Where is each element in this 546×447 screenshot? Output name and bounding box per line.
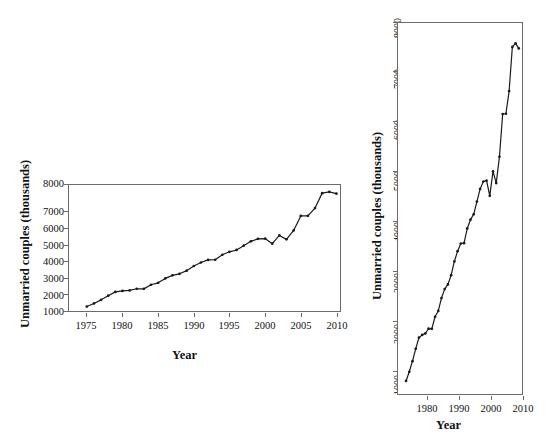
left-xtick-1975: 1975	[66, 321, 106, 332]
left-xtick-mark	[337, 313, 338, 317]
left-xtick-1995: 1995	[209, 321, 249, 332]
left-ytick-3000: 3000	[30, 274, 64, 285]
left-ytick-6000: 6000	[30, 224, 64, 235]
right-xtick-mark	[427, 396, 428, 400]
left-xtick-mark	[122, 313, 123, 317]
left-xtick-mark	[194, 313, 195, 317]
right-xtick-mark	[459, 396, 460, 400]
left-xtick-mark	[86, 313, 87, 317]
chart-panel-left: Unmarried couples (thousands) 1000 2000 …	[0, 168, 350, 368]
right-x-axis-title: Year	[436, 418, 461, 433]
right-y-axis-title: Unmarried couples (thousands)	[370, 132, 385, 300]
left-xtick-1985: 1985	[138, 321, 178, 332]
left-xtick-2005: 2005	[281, 321, 321, 332]
left-ytick-7000: 7000	[30, 207, 64, 218]
left-xtick-mark	[229, 313, 230, 317]
two-panel-line-chart-figure: Unmarried couples (thousands) 1000 2000 …	[0, 0, 546, 447]
right-xtick-mark	[491, 396, 492, 400]
left-ytick-8000: 8000	[30, 179, 64, 190]
left-ytick-5000: 5000	[30, 241, 64, 252]
chart-panel-right: Unmarried couples (thousands) 1000 2000 …	[348, 0, 546, 447]
left-ytick-1000: 1000	[30, 307, 64, 318]
left-xtick-mark	[301, 313, 302, 317]
left-ytick-4000: 4000	[30, 257, 64, 268]
left-xtick-mark	[158, 313, 159, 317]
right-plot-area	[397, 22, 523, 395]
left-x-axis-title: Year	[172, 348, 197, 363]
left-data-line	[69, 185, 340, 311]
left-xtick-2000: 2000	[245, 321, 285, 332]
right-xtick-mark	[523, 396, 524, 400]
left-xtick-1980: 1980	[102, 321, 142, 332]
left-plot-area	[68, 184, 341, 312]
right-data-line	[398, 23, 522, 394]
left-xtick-mark	[265, 313, 266, 317]
right-xtick-2010: 2010	[503, 404, 543, 415]
left-ytick-2000: 2000	[30, 291, 64, 302]
left-xtick-1990: 1990	[174, 321, 214, 332]
